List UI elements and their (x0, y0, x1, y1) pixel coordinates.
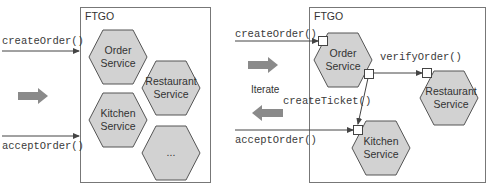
diagram-canvas: FTGO createOrder() acceptOrder() Order S… (0, 0, 488, 187)
svg-text:Service: Service (100, 57, 135, 69)
svg-text:...: ... (167, 146, 176, 158)
iterate-indicator: Iterate (248, 57, 283, 121)
iterate-label: Iterate (251, 84, 280, 95)
svg-text:Order: Order (105, 44, 132, 56)
svg-text:Restaurant: Restaurant (145, 75, 196, 87)
accept-order-label: acceptOrder() (2, 140, 84, 152)
order-service-outbound-port (365, 70, 374, 79)
create-ticket-label: createTicket() (283, 95, 371, 107)
svg-text:Order: Order (330, 47, 357, 59)
right-panel: FTGO Order Service Restaurant Service Ki… (235, 8, 486, 183)
refactor-arrow-icon (18, 88, 48, 104)
svg-text:Kitchen: Kitchen (100, 107, 135, 119)
svg-text:Service: Service (153, 88, 188, 100)
restaurant-service-inbound-port (423, 69, 432, 78)
kitchen-service-inbound-port (354, 126, 363, 135)
create-order-label: createOrder() (2, 35, 84, 47)
forward-arrow-icon (248, 57, 278, 73)
svg-text:Service: Service (433, 98, 468, 110)
left-panel: FTGO createOrder() acceptOrder() Order S… (2, 8, 211, 183)
svg-text:Restaurant: Restaurant (425, 85, 476, 97)
back-arrow-icon (252, 105, 283, 121)
verify-order-label: verifyOrder() (380, 51, 462, 63)
svg-text:Kitchen: Kitchen (363, 135, 398, 147)
svg-text:Service: Service (325, 60, 360, 72)
ftgo-box-label: FTGO (314, 10, 343, 22)
svg-text:Service: Service (363, 148, 398, 160)
ftgo-box-label: FTGO (85, 10, 114, 22)
create-order-label: createOrder() (235, 28, 317, 40)
order-service-inbound-port (319, 37, 328, 46)
svg-text:Service: Service (100, 120, 135, 132)
accept-order-label: acceptOrder() (235, 134, 317, 146)
